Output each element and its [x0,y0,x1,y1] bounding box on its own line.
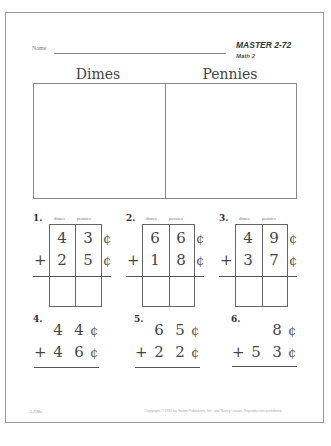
problem-6-plus: + [232,343,245,361]
problem-1-bottom-pennies: 5 [78,251,98,269]
problem-1-number: 1. [33,213,42,223]
problem-3-top-dimes: 4 [238,229,258,247]
problem-4-bottom-tens: 4 [48,343,68,361]
problem-3-bottom-dimes: 3 [238,251,258,269]
problem-2-bottom-dimes: 1 [145,251,165,269]
problem-6-number: 6. [231,314,240,324]
dimes-title: Dimes [33,66,163,82]
problem-1-bottom-cent: ¢ [103,253,111,268]
problem-4-top-ones: 4 [69,321,89,339]
problem-6-bottom-tens: 5 [246,343,266,361]
pennies-title: Pennies [165,66,295,82]
problem-5-bottom-cent: ¢ [191,345,199,360]
problem-3-top-pennies: 9 [264,229,284,247]
problem-4-number: 4. [33,314,42,324]
problem-2-answer-dimes[interactable] [143,277,169,306]
problem-6-bottom-ones: 3 [267,343,287,361]
problem-6-top-ones: 8 [267,321,287,339]
problem-5-plus: + [135,343,148,361]
problem-4-plus: + [34,343,47,361]
problem-1-answer-pennies[interactable] [75,277,101,306]
problem-2-plus: + [127,251,140,269]
problem-5-number: 5. [134,314,143,324]
problem-2-dimes-header: dimes [146,216,157,221]
problem-1-bottom-dimes: 2 [52,251,72,269]
master-code: MASTER 2-72 [236,40,291,50]
problem-1-answer-dimes[interactable] [50,277,75,306]
problem-1-pennies-header: pennies [77,216,91,221]
problem-3-pennies-header: pennies [262,216,276,221]
problem-4-sum-line [34,367,99,368]
problem-2-number: 2. [126,213,135,223]
name-field-line[interactable] [54,53,226,54]
problem-5-sum-line [135,367,200,368]
problem-5-top-cent: ¢ [191,323,199,338]
problem-2-top-dimes: 6 [145,229,165,247]
problem-3-number: 3. [219,213,228,223]
problem-6-sum-line [232,366,297,367]
problem-4-top-cent: ¢ [90,323,98,338]
footer-copyright: Copyright © 1991 by Saxon Publishers, In… [145,409,282,413]
problem-1-plus: + [34,251,47,269]
problem-1-top-dimes: 4 [52,229,72,247]
problem-3-bottom-pennies: 7 [264,251,284,269]
problem-6-top-cent: ¢ [288,323,296,338]
problem-4-bottom-cent: ¢ [90,345,98,360]
problem-3-dimes-header: dimes [239,216,250,221]
sort-box [33,83,297,199]
problem-2-answer-pennies[interactable] [169,277,194,306]
problem-2-top-cent: ¢ [196,231,204,246]
problem-1-top-cent: ¢ [103,231,111,246]
problem-5-top-tens: 6 [149,321,169,339]
problem-4-top-tens: 4 [48,321,68,339]
problem-4-bottom-ones: 6 [69,343,89,361]
problem-5-bottom-ones: 2 [170,343,190,361]
name-label: Name [32,45,46,51]
problem-5-top-ones: 5 [170,321,190,339]
problem-3-answer-pennies[interactable] [262,277,287,306]
problem-2-bottom-cent: ¢ [196,253,204,268]
problem-6-bottom-cent: ¢ [288,345,296,360]
problem-2-bottom-pennies: 8 [171,251,191,269]
problem-3-top-cent: ¢ [289,231,297,246]
footer-code: 2-72Ma [30,410,42,414]
course-label: Math 2 [236,53,255,59]
problem-1-dimes-header: dimes [54,216,65,221]
problem-3-bottom-cent: ¢ [289,253,297,268]
problem-1-top-pennies: 3 [78,229,98,247]
problem-3-answer-dimes[interactable] [236,277,262,306]
problem-2-pennies-header: pennies [169,216,183,221]
problem-2-top-pennies: 6 [171,229,191,247]
problem-3-plus: + [220,251,233,269]
sort-box-divider [165,84,166,198]
problem-5-bottom-tens: 2 [149,343,169,361]
